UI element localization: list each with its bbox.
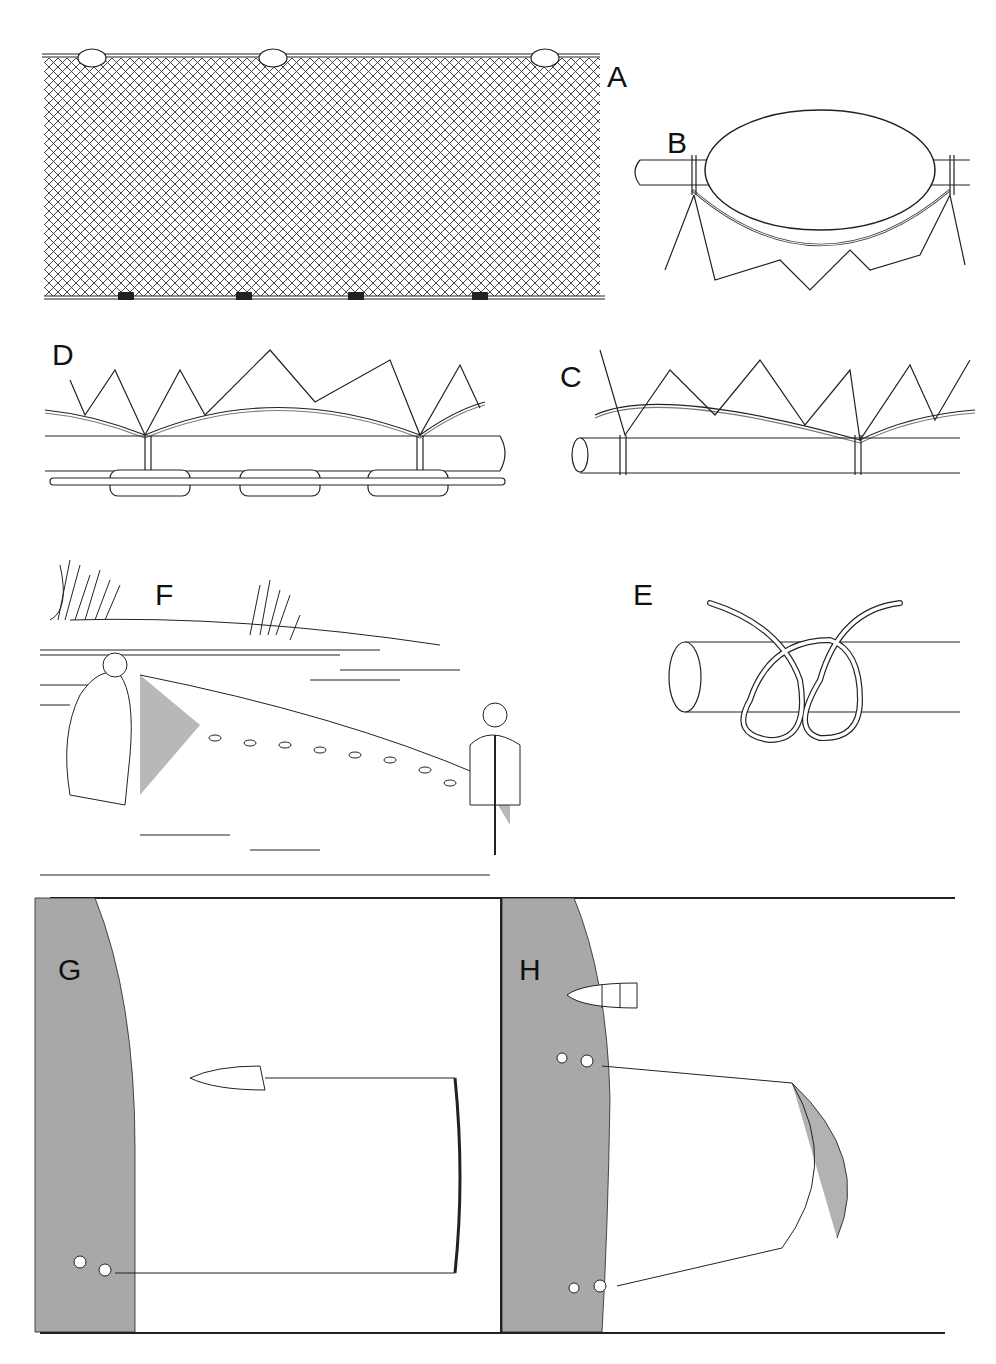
net-hauling-plan-illustration bbox=[502, 898, 962, 1332]
seine-net-illustration bbox=[40, 40, 610, 310]
panel-d-lead-line-detail bbox=[45, 340, 515, 510]
worker-left-icon bbox=[67, 653, 132, 805]
clove-hitch-knot-illustration bbox=[660, 600, 960, 780]
panel-label-c: C bbox=[560, 362, 582, 392]
panel-label-b: B bbox=[667, 128, 687, 158]
divider-bottom bbox=[40, 1332, 945, 1334]
panel-label-g: G bbox=[58, 955, 81, 985]
panel-c-float-line-detail bbox=[560, 340, 980, 480]
shoreline-area bbox=[35, 898, 135, 1332]
hauling-scene-illustration bbox=[40, 555, 680, 875]
lead-line-illustration bbox=[45, 340, 515, 510]
panel-f-hauling-scene bbox=[40, 555, 680, 875]
net-setting-plan-illustration bbox=[35, 898, 500, 1332]
panel-label-d: D bbox=[52, 340, 74, 370]
panel-label-a: A bbox=[607, 62, 627, 92]
panel-e-knot-detail bbox=[660, 600, 960, 780]
worker-right-icon bbox=[470, 703, 520, 855]
panel-label-e: E bbox=[633, 580, 653, 610]
panel-a-seine-net bbox=[40, 40, 610, 310]
boat-icon bbox=[190, 1066, 265, 1090]
panel-h-net-hauling-plan bbox=[502, 898, 962, 1332]
panel-g-net-setting-plan bbox=[35, 898, 500, 1332]
panel-label-h: H bbox=[519, 955, 541, 985]
float-line-illustration bbox=[560, 340, 980, 480]
chain-link-icons bbox=[50, 470, 505, 496]
panel-label-f: F bbox=[155, 580, 173, 610]
